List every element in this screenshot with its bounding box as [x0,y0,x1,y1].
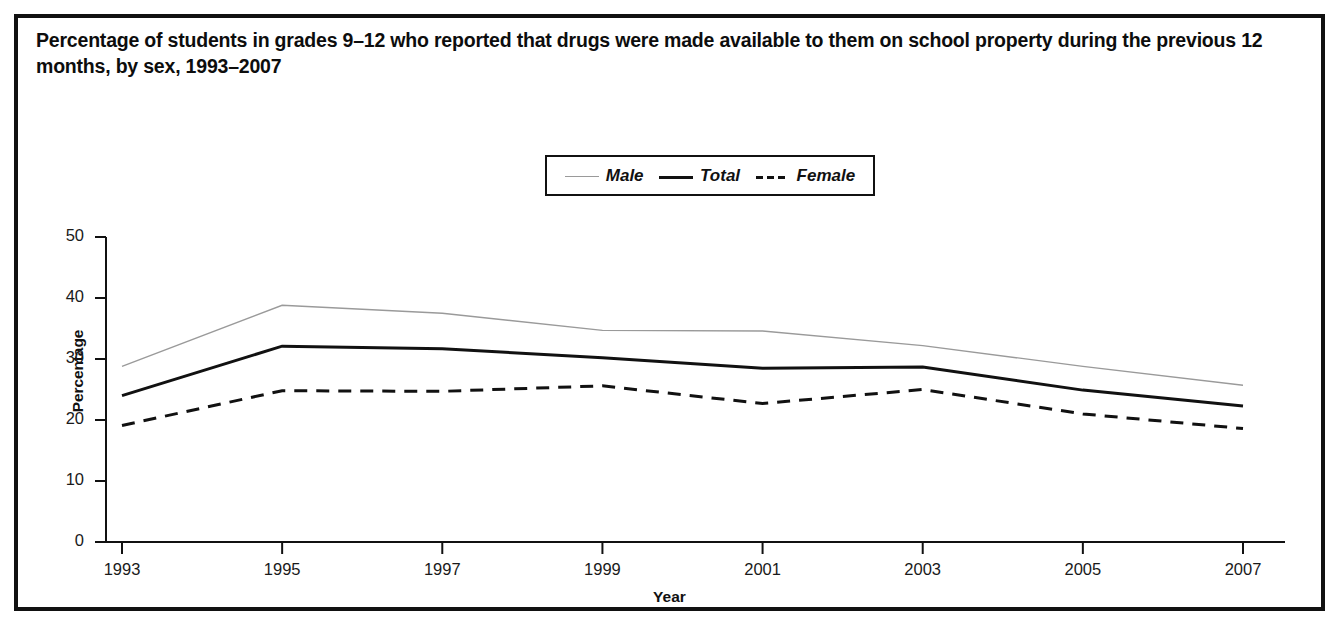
legend-label-male: Male [606,166,644,186]
x-tick-label: 1995 [247,560,317,579]
chart-legend: Male Total Female [545,155,875,196]
y-tick-label: 20 [42,409,84,428]
x-tick-label: 2005 [1048,560,1118,579]
x-tick-label: 1997 [407,560,477,579]
x-axis-label: Year [0,588,1339,606]
line-swatch-icon [659,171,693,181]
line-swatch-icon [565,171,599,181]
dashed-line-swatch-icon [756,171,790,181]
chart-figure: Percentage of students in grades 9–12 wh… [0,0,1339,625]
x-tick-label: 2001 [728,560,798,579]
legend-label-total: Total [700,166,740,186]
legend-item-male[interactable]: Male [565,166,644,186]
legend-label-female: Female [797,166,856,186]
y-tick-label: 50 [42,226,84,245]
y-tick-label: 40 [42,287,84,306]
x-tick-label: 2007 [1208,560,1278,579]
y-tick-label: 30 [42,348,84,367]
y-tick-label: 10 [42,470,84,489]
legend-item-total[interactable]: Total [659,166,740,186]
figure-border [14,14,1325,611]
y-tick-label: 0 [42,531,84,550]
x-tick-label: 1999 [567,560,637,579]
legend-item-female[interactable]: Female [756,166,856,186]
x-tick-label: 2003 [888,560,958,579]
chart-title: Percentage of students in grades 9–12 wh… [36,28,1276,79]
x-tick-label: 1993 [87,560,157,579]
